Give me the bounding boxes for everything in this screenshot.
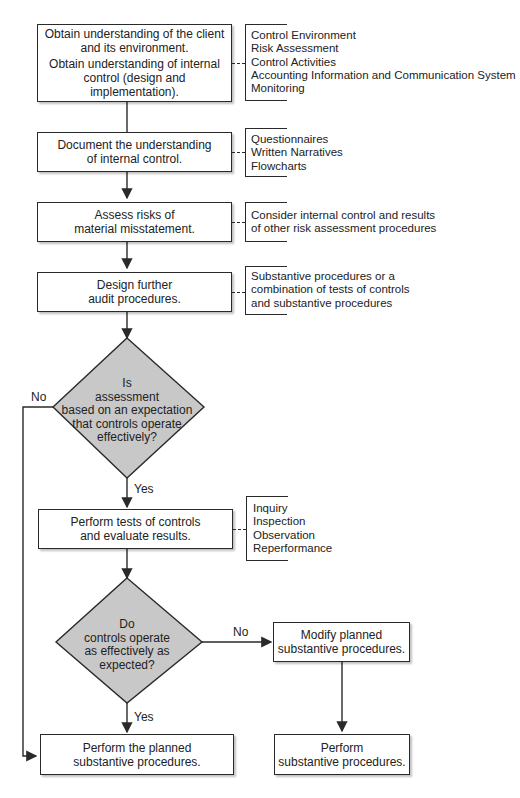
text-line: and evaluate results.	[80, 529, 191, 543]
text-line: as effectively as	[67, 645, 187, 659]
step-perform-tests: Perform tests of controls and evaluate r…	[38, 509, 233, 549]
text-line: and its environment.	[80, 41, 188, 55]
text-line: assessment	[57, 391, 197, 405]
step-document-understanding: Document the understanding of internal c…	[37, 132, 232, 172]
text-line: Control Activities	[251, 56, 516, 69]
decision-2-yes-label: Yes	[134, 710, 154, 724]
text-line: substantive procedures.	[73, 755, 200, 769]
text-line: combination of tests of controls	[251, 283, 410, 296]
annotation-connector	[233, 529, 246, 530]
annotation-connector	[232, 152, 245, 153]
text-line: Inquiry	[253, 502, 332, 515]
note-tests: Inquiry Inspection Observation Reperform…	[253, 502, 332, 555]
text-line: Written Narratives	[251, 146, 343, 159]
text-line: material misstatement.	[74, 222, 195, 236]
note-document: Questionnaires Written Narratives Flowch…	[251, 133, 343, 173]
text-line: Do	[67, 618, 187, 632]
text-line: Obtain understanding of the client	[45, 27, 224, 41]
step-assess-risks: Assess risks of material misstatement.	[37, 202, 232, 242]
text-line: Questionnaires	[251, 133, 343, 146]
step-obtain-understanding: Obtain understanding of the client and i…	[37, 24, 232, 102]
step-design-procedures: Design further audit procedures.	[37, 272, 232, 312]
annotation-connector	[232, 63, 245, 64]
step-perform-planned-substantive: Perform the planned substantive procedur…	[40, 734, 234, 775]
note-obtain: Control Environment Risk Assessment Cont…	[251, 29, 516, 95]
text-line: audit procedures.	[88, 292, 181, 306]
text-line: Inspection	[253, 515, 332, 528]
decision-2-no-label: No	[233, 625, 248, 639]
note-assess: Consider internal control and results of…	[251, 209, 436, 236]
step-modify-substantive: Modify planned substantive procedures.	[273, 622, 410, 662]
text-line: substantive procedures.	[278, 755, 405, 769]
text-line: Design further	[97, 278, 172, 292]
text-line: Assess risks of	[94, 208, 174, 222]
text-line: Observation	[253, 529, 332, 542]
text-line: based on an expectation	[57, 404, 197, 418]
decision-1-no-label: No	[31, 390, 46, 404]
decision-2-text: Do controls operate as effectively as ex…	[67, 618, 187, 672]
annotation-connector	[232, 292, 245, 293]
step-perform-substantive: Perform substantive procedures.	[274, 734, 410, 775]
text-line: Obtain understanding of internal	[49, 57, 220, 71]
text-line: Substantive procedures or a	[251, 270, 410, 283]
text-line: Perform the planned	[83, 741, 192, 755]
text-line: Flowcharts	[251, 160, 343, 173]
text-line: of internal control.	[87, 152, 182, 166]
text-line: Consider internal control and results	[251, 209, 436, 222]
text-line: Is	[57, 377, 197, 391]
text-line: Document the understanding	[57, 138, 211, 152]
text-line: and substantive procedures	[251, 297, 410, 310]
text-line: effectively?	[57, 431, 197, 445]
text-line: of other risk assessment procedures	[251, 222, 436, 235]
text-line: Monitoring	[251, 82, 516, 95]
text-line: that controls operate	[57, 418, 197, 432]
text-line: Perform tests of controls	[70, 515, 200, 529]
text-line: Perform	[321, 741, 364, 755]
text-line: control (design and implementation).	[38, 71, 231, 99]
decision-1-text: Is assessment based on an expectation th…	[57, 377, 197, 445]
text-line: Modify planned	[301, 628, 382, 642]
annotation-connector	[232, 222, 245, 223]
text-line: Accounting Information and Communication…	[251, 69, 516, 82]
text-line: substantive procedures.	[278, 642, 405, 656]
note-design: Substantive procedures or a combination …	[251, 270, 410, 310]
text-line: expected?	[67, 659, 187, 673]
text-line: Reperformance	[253, 542, 332, 555]
text-line: Risk Assessment	[251, 42, 516, 55]
text-line: Control Environment	[251, 29, 516, 42]
text-line: controls operate	[67, 632, 187, 646]
decision-1-yes-label: Yes	[134, 482, 154, 496]
